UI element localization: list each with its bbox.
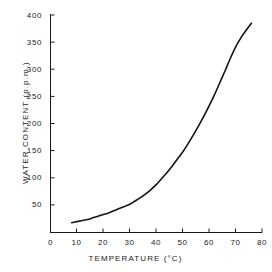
x-tick-label-60: 60 bbox=[197, 238, 222, 247]
y-axis-ticks bbox=[51, 15, 55, 205]
x-tick-label-0: 0 bbox=[38, 238, 63, 247]
x-tick-label-50: 50 bbox=[170, 238, 195, 247]
x-tick-label-30: 30 bbox=[117, 238, 142, 247]
water-content-temperature-chart: 400 350 300 250 200 150 100 50 0 10 20 3… bbox=[0, 0, 271, 272]
y-tick-label-400: 400 bbox=[8, 11, 42, 20]
x-tick-label-40: 40 bbox=[144, 238, 169, 247]
data-series-line bbox=[72, 23, 252, 223]
x-axis-title: TEMPERATURE (°C) bbox=[0, 254, 271, 263]
y-axis-title: WATER CONTENT (p.p.m.) bbox=[21, 43, 30, 203]
x-axis-ticks bbox=[77, 229, 263, 233]
x-tick-label-80: 80 bbox=[250, 238, 272, 247]
x-tick-label-10: 10 bbox=[64, 238, 89, 247]
x-tick-label-70: 70 bbox=[223, 238, 248, 247]
x-tick-label-20: 20 bbox=[91, 238, 116, 247]
